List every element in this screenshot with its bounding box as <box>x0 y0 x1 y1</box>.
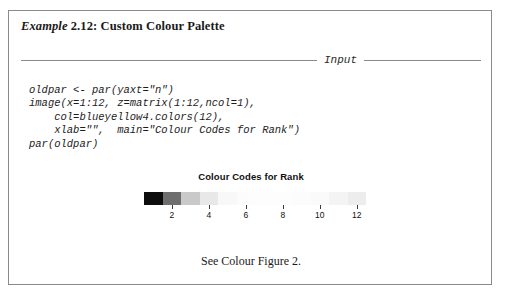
example-title: Example 2.12: Custom Colour Palette <box>21 19 225 34</box>
example-number: 2.12: <box>71 19 98 33</box>
example-keyword: Example <box>21 19 68 33</box>
palette-cell <box>348 192 367 205</box>
axis-tick-label: 6 <box>243 210 248 220</box>
axis-tick-label: 12 <box>352 210 361 220</box>
input-label: Input <box>317 54 364 66</box>
plot-area: Colour Codes for Rank 24681012 <box>9 161 493 236</box>
palette-cell <box>329 192 348 205</box>
colorbar-wrap <box>144 192 366 205</box>
palette-cell <box>144 192 163 205</box>
axis-tick <box>209 205 210 209</box>
axis-tick <box>246 205 247 209</box>
axis-tick-label: 2 <box>169 210 174 220</box>
palette-cell <box>311 192 330 205</box>
code-block: oldpar <- par(yaxt="n") image(x=1:12, z=… <box>29 84 300 152</box>
axis-tick-label: 8 <box>280 210 285 220</box>
axis-tick-label: 10 <box>315 210 324 220</box>
colour-palette-bar <box>144 192 366 205</box>
axis-tick <box>172 205 173 209</box>
axis-tick-label: 4 <box>206 210 211 220</box>
divider-line-right <box>364 60 481 61</box>
palette-cell <box>255 192 274 205</box>
axis-tick <box>357 205 358 209</box>
axis-tick <box>283 205 284 209</box>
palette-cell <box>218 192 237 205</box>
example-title-text: Custom Colour Palette <box>101 19 225 33</box>
divider-line-left <box>21 60 317 61</box>
palette-cell <box>181 192 200 205</box>
palette-cell <box>292 192 311 205</box>
palette-cell <box>163 192 182 205</box>
example-box: Example 2.12: Custom Colour Palette Inpu… <box>8 10 492 285</box>
x-axis: 24681012 <box>144 205 366 229</box>
input-section-divider: Input <box>21 53 481 67</box>
axis-tick <box>320 205 321 209</box>
palette-cell <box>237 192 256 205</box>
palette-cell <box>274 192 293 205</box>
figure-page: Example 2.12: Custom Colour Palette Inpu… <box>0 0 505 297</box>
figure-caption: See Colour Figure 2. <box>9 254 493 269</box>
palette-cell <box>200 192 219 205</box>
chart-title: Colour Codes for Rank <box>9 171 493 182</box>
